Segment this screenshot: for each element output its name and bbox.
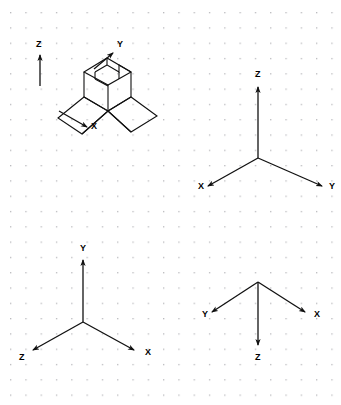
- axis-arrow-y-fig2: [258, 158, 322, 186]
- axis-arrow-y-fig4: [212, 282, 258, 312]
- figure-axes-bottom-right: [212, 282, 305, 345]
- axis-label-x-fig3: X: [145, 348, 151, 357]
- axis-label-x-fig4: X: [314, 310, 320, 319]
- solid-base-front-edge: [82, 111, 131, 134]
- axis-arrow-x-fig1: [59, 111, 87, 127]
- figures-layer: [0, 0, 341, 405]
- drawing-canvas: Z Y X Z X Y Y Z X Y X Z: [0, 0, 341, 405]
- solid-base-right-wing: [108, 97, 157, 132]
- axis-label-y-fig1: Y: [117, 40, 123, 49]
- axis-arrow-x-fig3: [83, 322, 134, 350]
- solid-notch-front-edge: [95, 79, 108, 86]
- axis-arrow-x-fig2: [208, 158, 258, 186]
- solid-top-block-left-face: [84, 72, 108, 111]
- axis-label-y-fig4: Y: [202, 310, 208, 319]
- axis-label-y-fig3: Y: [80, 244, 86, 253]
- axis-label-x-fig1: X: [91, 122, 97, 131]
- figure-axes-top-right: [208, 87, 322, 186]
- axis-label-z-fig1: Z: [36, 40, 42, 49]
- axis-label-z-fig4: Z: [255, 353, 261, 362]
- axis-label-x-fig2: X: [198, 182, 204, 191]
- solid-base-left-wing: [58, 97, 108, 134]
- axis-label-z-fig2: Z: [255, 70, 261, 79]
- figure-isometric-solid: [58, 58, 157, 134]
- axis-label-z-fig3: Z: [19, 353, 25, 362]
- axis-arrow-z-fig3: [33, 322, 83, 350]
- axis-label-y-fig2: Y: [329, 182, 335, 191]
- axis-arrow-x-fig4: [258, 282, 305, 312]
- figure-axes-bottom-left: [33, 260, 134, 350]
